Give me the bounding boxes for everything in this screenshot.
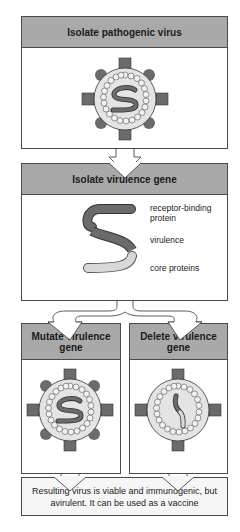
step-delete-box: Delete virulence gene [129, 323, 228, 474]
result-box: Resulting virus is viable and immunogeni… [21, 477, 228, 516]
label-receptor-binding-line1: receptor-binding [150, 203, 211, 213]
step-isolate-virus-title: Isolate pathogenic virus [22, 17, 227, 48]
step-isolate-gene-box: Isolate virulence gene [21, 163, 228, 301]
label-receptor-binding-line2: protein [150, 213, 176, 223]
step-mutate-box: Mutate virulence gene [21, 323, 121, 474]
label-virulence: virulence [150, 235, 184, 245]
label-core-proteins: core proteins [150, 263, 199, 273]
label-receptor-binding: receptor-binding protein [150, 203, 211, 223]
step-mutate-title: Mutate virulence gene [22, 324, 120, 360]
step-isolate-gene-title: Isolate virulence gene [22, 164, 227, 195]
step-isolate-virus-box: Isolate pathogenic virus [21, 16, 228, 149]
result-text: Resulting virus is viable and immunogeni… [28, 485, 221, 509]
step-delete-title: Delete virulence gene [130, 324, 227, 360]
